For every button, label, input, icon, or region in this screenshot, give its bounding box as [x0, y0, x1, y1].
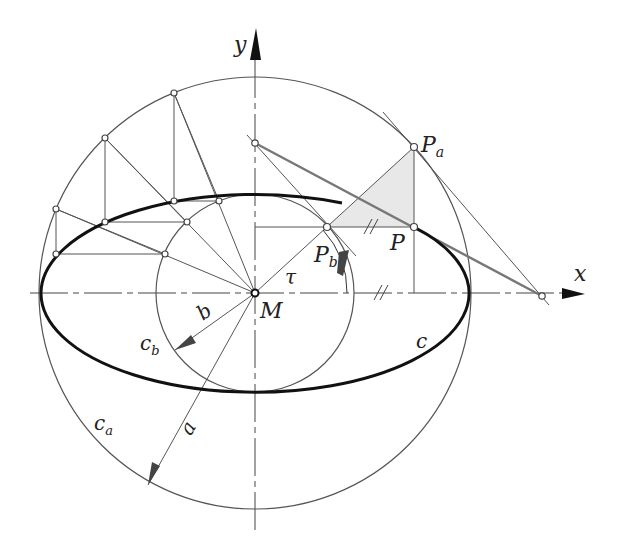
- ellipse-construction-diagram: y x M τ Pa Pb P b a cb ca c: [0, 0, 624, 550]
- label-M: M: [259, 298, 283, 323]
- label-Pa: Pa: [420, 132, 444, 160]
- label-a: a: [174, 417, 201, 439]
- point-P: [411, 224, 418, 231]
- label-Pb: Pb: [313, 242, 338, 270]
- x-axis-arrow-icon: [562, 288, 585, 299]
- label-c: c: [416, 329, 427, 353]
- label-cb: cb: [140, 331, 160, 358]
- center-M: [252, 290, 259, 297]
- label-P: P: [389, 230, 406, 255]
- y-axis-arrow-icon: [250, 28, 261, 60]
- label-tau: τ: [285, 265, 297, 289]
- construction-points: [53, 90, 545, 299]
- point-Pb: [324, 224, 331, 231]
- label-ca: ca: [94, 411, 113, 438]
- label-x-axis: x: [574, 261, 587, 286]
- point-Pa: [411, 144, 418, 151]
- parallel-marks: [364, 219, 388, 300]
- construction-lines: [56, 93, 549, 485]
- label-y-axis: y: [233, 32, 247, 57]
- label-b: b: [192, 298, 216, 325]
- radius-a-arrow-icon: [148, 462, 160, 485]
